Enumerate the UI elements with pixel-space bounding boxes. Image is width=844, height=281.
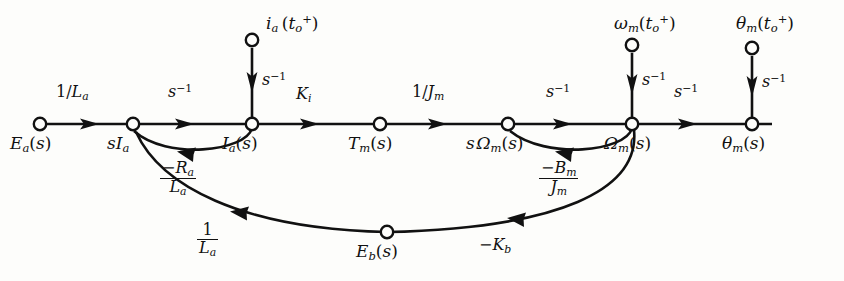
gain-label-b13: 1 La	[197, 222, 218, 258]
node-label-sOmegam: s Ωm(s)	[466, 133, 524, 155]
node-label-Ea: Ea(s)	[10, 133, 51, 155]
gain-label-b6: s−1	[674, 82, 698, 101]
node-Tm[interactable]	[374, 118, 386, 130]
gain-label-b2: s−1	[168, 82, 192, 101]
node-theta0[interactable]	[746, 42, 758, 54]
gain-label-b10: −Ra La	[160, 160, 196, 198]
main-axis-branches	[40, 119, 772, 130]
gain-label-b4: 1/Jm	[412, 82, 444, 103]
node-label-theta0: θm(to+)	[736, 12, 794, 35]
node-thetam[interactable]	[746, 118, 758, 130]
gain-label-b1: 1/La	[56, 82, 89, 103]
node-Ia[interactable]	[246, 118, 258, 130]
node-label-sIa: sIa	[107, 133, 129, 155]
node-sIa[interactable]	[127, 118, 139, 130]
node-label-Eb: Eb(s)	[356, 241, 398, 263]
gain-label-b9: s−1	[762, 72, 786, 91]
node-label-ia0: ia (to+)	[266, 12, 319, 35]
node-ia0[interactable]	[246, 34, 258, 46]
arrowhead-b12	[507, 213, 526, 228]
node-label-omega0: ωm(to+)	[614, 12, 676, 35]
node-label-thetam: θm(s)	[722, 133, 765, 155]
node-Omegam[interactable]	[626, 118, 638, 130]
node-label-Ia: Ia(s)	[222, 133, 258, 155]
gain-label-b7: s−1	[262, 70, 286, 89]
node-label-Omegam: Ωm(s)	[604, 133, 651, 155]
back-emf-loop-arrowheads	[230, 207, 526, 228]
gain-label-b12: −Kb	[479, 235, 511, 256]
node-Ea[interactable]	[34, 118, 46, 130]
node-sOmegam[interactable]	[502, 118, 514, 130]
node-omega0[interactable]	[626, 39, 638, 51]
gain-label-b3: Ki	[296, 84, 311, 105]
gain-label-b5: s−1	[546, 82, 570, 101]
gain-label-b11: −Bm Jm	[539, 160, 578, 198]
node-label-Tm: Tm(s)	[348, 133, 392, 155]
node-Eb[interactable]	[381, 226, 393, 238]
gain-label-b8: s−1	[642, 70, 666, 89]
